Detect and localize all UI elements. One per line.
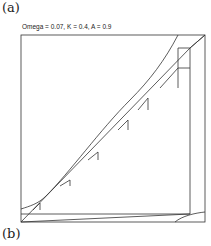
map-curve bbox=[21, 35, 178, 209]
panel-label-b: (b) bbox=[2, 226, 20, 241]
cobweb-steps bbox=[33, 68, 190, 210]
cobweb-plot bbox=[0, 0, 211, 246]
